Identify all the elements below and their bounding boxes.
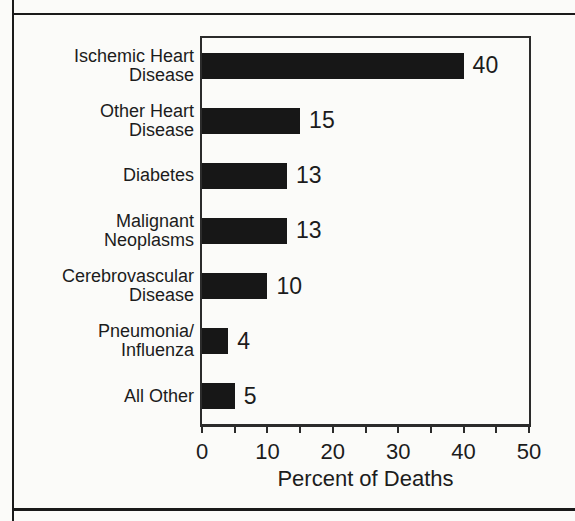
bar-value-label: 15 xyxy=(309,107,335,134)
bar-row: 5 xyxy=(202,369,529,424)
x-axis-tick xyxy=(495,427,497,433)
bar xyxy=(202,108,300,134)
x-axis-tick xyxy=(201,427,203,433)
category-label-line: Disease xyxy=(129,121,194,140)
category-label-line: Pneumonia/ xyxy=(98,322,194,341)
bar xyxy=(202,273,267,299)
x-axis-tick xyxy=(528,427,530,433)
category-label-line: Neoplasms xyxy=(104,231,194,250)
category-label-line: Ischemic Heart xyxy=(74,47,194,66)
bar xyxy=(202,383,235,409)
figure-top-rule xyxy=(12,13,575,15)
category-label: Other HeartDisease xyxy=(14,93,194,148)
category-label-line: Cerebrovascular xyxy=(62,267,194,286)
x-axis-tick xyxy=(299,427,301,433)
x-axis-tick xyxy=(430,427,432,433)
x-axis-tick-label: 0 xyxy=(172,439,232,465)
x-axis-tick-label: 50 xyxy=(499,439,559,465)
x-axis-title: Percent of Deaths xyxy=(202,466,529,492)
bar-value-label: 40 xyxy=(473,52,499,79)
bar xyxy=(202,163,287,189)
bar-row: 10 xyxy=(202,259,529,314)
scanned-figure-page: 40Ischemic HeartDisease15Other HeartDise… xyxy=(0,0,575,521)
category-label-line: Diabetes xyxy=(123,166,194,185)
category-label: Pneumonia/Influenza xyxy=(14,314,194,369)
x-axis-tick xyxy=(365,427,367,433)
category-label: Ischemic HeartDisease xyxy=(14,38,194,93)
category-label-line: Malignant xyxy=(116,212,194,231)
bar-value-label: 4 xyxy=(237,328,250,355)
x-axis-tick xyxy=(463,427,465,433)
x-axis-tick-label: 10 xyxy=(237,439,297,465)
bar xyxy=(202,218,287,244)
category-label-line: Influenza xyxy=(121,341,194,360)
bar-row: 15 xyxy=(202,93,529,148)
x-axis-tick-label: 30 xyxy=(368,439,428,465)
bar-value-label: 10 xyxy=(276,273,302,300)
x-axis-tick xyxy=(266,427,268,433)
bar-row: 13 xyxy=(202,203,529,258)
category-label-line: Disease xyxy=(129,286,194,305)
x-axis-tick xyxy=(332,427,334,433)
bar-value-label: 13 xyxy=(296,162,322,189)
category-label: CerebrovascularDisease xyxy=(14,259,194,314)
bar-row: 13 xyxy=(202,148,529,203)
bar-value-label: 5 xyxy=(244,383,257,410)
bar-value-label: 13 xyxy=(296,217,322,244)
figure-bottom-rule xyxy=(12,508,575,511)
x-axis-tick-label: 20 xyxy=(303,439,363,465)
category-label: MalignantNeoplasms xyxy=(14,203,194,258)
bar xyxy=(202,328,228,354)
bar xyxy=(202,53,464,79)
bar-row: 40 xyxy=(202,38,529,93)
category-label-line: All Other xyxy=(124,387,194,406)
category-label-line: Other Heart xyxy=(100,102,194,121)
category-label: All Other xyxy=(14,369,194,424)
x-axis-tick xyxy=(234,427,236,433)
bar-row: 4 xyxy=(202,314,529,369)
x-axis-tick xyxy=(397,427,399,433)
category-label-line: Disease xyxy=(129,66,194,85)
category-label: Diabetes xyxy=(14,148,194,203)
x-axis-tick-label: 40 xyxy=(434,439,494,465)
